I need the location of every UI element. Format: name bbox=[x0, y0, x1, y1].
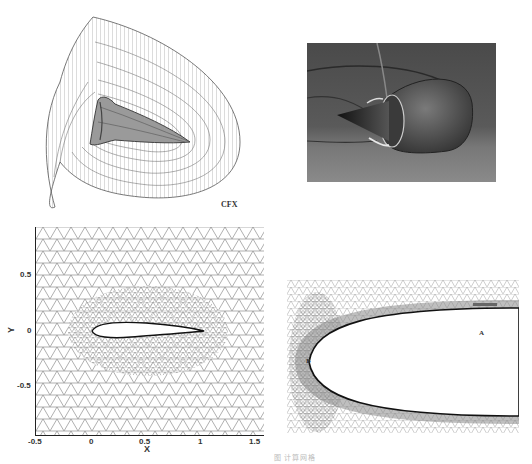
engine-nacelle-graphic bbox=[307, 43, 496, 182]
x-tick-1: 1 bbox=[198, 437, 202, 446]
x-tick-neg0.5: -0.5 bbox=[28, 437, 42, 446]
marker-b-label: B bbox=[306, 357, 311, 365]
blunt-body-mesh-graphic bbox=[287, 280, 519, 433]
figure-caption: 图 计算网格 bbox=[240, 452, 350, 462]
airfoil-mesh-graphic bbox=[36, 227, 264, 435]
airfoil-mesh-plot bbox=[35, 227, 264, 436]
y-tick-0.5: 0.5 bbox=[20, 270, 31, 279]
x-tick-1.5: 1.5 bbox=[249, 437, 260, 446]
blunt-body-mesh-panel bbox=[287, 280, 519, 433]
x-tick-0: 0 bbox=[89, 437, 93, 446]
cfx-3d-mesh-panel bbox=[40, 12, 250, 212]
y-axis-label: Y bbox=[6, 327, 16, 333]
y-tick-0: 0 bbox=[27, 326, 31, 335]
cfx-mesh-graphic bbox=[40, 12, 250, 212]
y-tick-neg0.5: -0.5 bbox=[17, 381, 31, 390]
engine-nacelle-render-panel bbox=[307, 43, 496, 182]
marker-a-label: A bbox=[479, 329, 484, 337]
x-axis-label: X bbox=[144, 444, 150, 454]
cfx-label: CFX bbox=[221, 200, 237, 209]
